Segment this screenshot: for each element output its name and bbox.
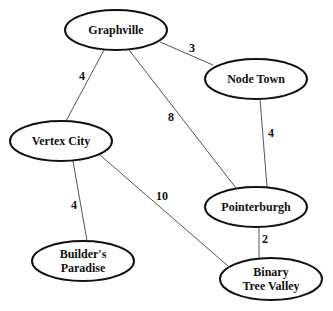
- node-vertex-city: Vertex City: [10, 121, 112, 161]
- edge-line: [66, 50, 104, 121]
- graph-svg: 34844102 GraphvilleNode TownVertex CityP…: [0, 0, 333, 311]
- edge-graphville-node-town: 3: [160, 41, 213, 65]
- node-label: Paradise: [61, 261, 106, 275]
- node-label: Graphville: [88, 23, 144, 37]
- edge-graphville-vertex-city: 4: [66, 50, 104, 121]
- edge-weight-label: 8: [168, 110, 174, 124]
- edge-weight-label: 4: [79, 69, 85, 83]
- node-label: Tree Valley: [242, 279, 299, 293]
- edge-weight-label: 4: [71, 198, 77, 212]
- edge-vertex-city-builders-paradise: 4: [71, 161, 87, 241]
- edge-node-town-pointerburgh: 4: [260, 99, 274, 187]
- edge-pointerburgh-binary-tree-valley: 2: [259, 227, 268, 259]
- node-binary-tree-valley: BinaryTree Valley: [220, 258, 322, 300]
- node-label: Binary: [253, 265, 288, 279]
- edge-weight-label: 4: [268, 126, 274, 140]
- edge-weight-label: 2: [262, 232, 268, 246]
- node-label: Pointerburgh: [221, 200, 291, 214]
- node-graphville: Graphville: [65, 10, 167, 50]
- edge-line: [160, 42, 213, 65]
- node-label: Vertex City: [32, 134, 91, 148]
- node-node-town: Node Town: [205, 59, 307, 99]
- node-label: Builder's: [60, 247, 107, 261]
- node-label: Node Town: [227, 72, 285, 86]
- nodes-layer: GraphvilleNode TownVertex CityPointerbur…: [10, 10, 322, 300]
- edge-line: [260, 99, 267, 187]
- edge-weight-label: 10: [156, 189, 168, 203]
- edge-weight-label: 3: [189, 41, 195, 55]
- node-builders-paradise: Builder'sParadise: [32, 241, 134, 281]
- graph-diagram: 34844102 GraphvilleNode TownVertex CityP…: [0, 0, 333, 311]
- node-pointerburgh: Pointerburgh: [205, 187, 307, 227]
